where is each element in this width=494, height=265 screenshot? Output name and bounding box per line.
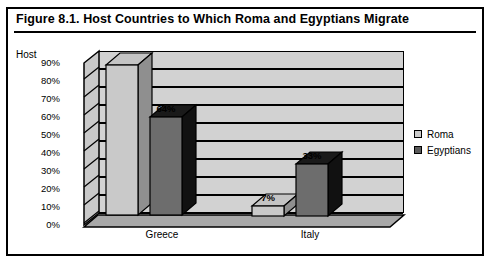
- y-tick-70: 70%: [41, 93, 60, 104]
- legend-swatch-icon: [414, 146, 422, 154]
- y-tick-0: 0%: [46, 219, 60, 230]
- y-tick-10: 10%: [41, 201, 60, 212]
- y-tick-30: 30%: [41, 165, 60, 176]
- bar-value-label: 64%: [156, 103, 175, 114]
- figure-title-bar: Figure 8.1. Host Countries to Which Roma…: [8, 9, 482, 32]
- y-tick-60: 60%: [41, 111, 60, 122]
- chart-legend: Roma Egyptians: [414, 127, 494, 159]
- legend-item-egyptians[interactable]: Egyptians: [414, 143, 494, 157]
- y-axis-title: Host: [16, 49, 37, 60]
- bar-value-label: 7%: [261, 192, 275, 203]
- plot-left-wall: [84, 63, 99, 225]
- legend-label: Egyptians: [427, 145, 471, 156]
- x-tick-italy: Italy: [301, 229, 319, 240]
- y-tick-20: 20%: [41, 183, 60, 194]
- x-axis: Greece Italy: [84, 229, 404, 247]
- bar-value-label: 33%: [302, 150, 321, 161]
- figure-container: Figure 8.1. Host Countries to Which Roma…: [6, 7, 484, 256]
- legend-swatch-icon: [414, 130, 422, 138]
- legend-label: Roma: [427, 129, 454, 140]
- legend-item-roma[interactable]: Roma: [414, 127, 494, 141]
- y-tick-40: 40%: [41, 147, 60, 158]
- x-tick-greece: Greece: [146, 229, 179, 240]
- bar-greece-egyptians[interactable]: 64%: [150, 105, 210, 217]
- y-axis: Host 90% 80% 70% 60% 50% 40% 30% 20% 10%…: [22, 51, 66, 219]
- page-title: Figure 8.1. Host Countries to Which Roma…: [16, 12, 409, 26]
- chart-canvas: Host 90% 80% 70% 60% 50% 40% 30% 20% 10%…: [70, 39, 442, 244]
- y-tick-50: 50%: [41, 129, 60, 140]
- left-wall-grid: [84, 51, 100, 227]
- title-divider: [14, 31, 476, 33]
- y-tick-90: 90%: [41, 57, 60, 68]
- y-tick-80: 80%: [41, 75, 60, 86]
- bar-italy-egyptians[interactable]: 33%: [296, 152, 356, 230]
